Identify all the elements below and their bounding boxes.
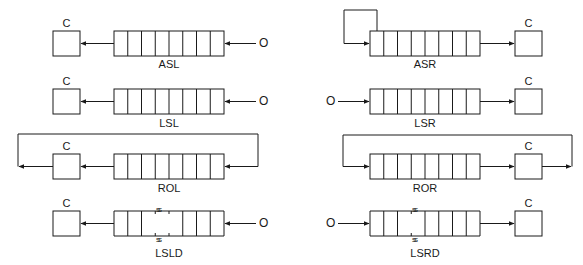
asl-diagram <box>53 31 256 56</box>
break-mark-icon: ss <box>412 236 416 244</box>
lsld-diagram <box>53 211 256 236</box>
carry-box <box>515 154 542 179</box>
zero-input-asl: O <box>259 37 268 49</box>
lsrd-diagram <box>338 211 542 236</box>
carry-label-lsld: C <box>53 197 80 209</box>
break-mark-icon: ss <box>156 236 160 244</box>
carry-label-lsrd: C <box>515 197 542 209</box>
shift-rotate-diagram <box>0 0 583 265</box>
carry-label-lsr: C <box>515 75 542 87</box>
zero-input-lsrd: O <box>326 217 335 229</box>
label-lsrd: LSRD <box>400 247 450 259</box>
label-asr: ASR <box>400 58 450 70</box>
carry-box <box>53 211 80 236</box>
sign-feedback-loop <box>344 10 377 44</box>
carry-box <box>53 154 80 179</box>
break-mark-icon: ss <box>156 206 160 214</box>
zero-input-lsld: O <box>259 217 268 229</box>
zero-input-lsr: O <box>326 95 335 107</box>
carry-box <box>515 89 542 114</box>
carry-label-asl: C <box>53 17 80 29</box>
label-lsld: LSLD <box>144 247 194 259</box>
label-asl: ASL <box>144 58 194 70</box>
lsl-diagram <box>53 89 256 114</box>
carry-label-asr: C <box>515 17 542 29</box>
carry-label-lsl: C <box>53 75 80 87</box>
asr-diagram <box>344 10 542 56</box>
carry-box <box>515 211 542 236</box>
carry-box <box>515 31 542 56</box>
carry-box <box>53 89 80 114</box>
double-register <box>114 211 224 236</box>
carry-label-ror: C <box>515 140 542 152</box>
label-rol: ROL <box>144 182 194 194</box>
carry-box <box>53 31 80 56</box>
label-lsl: LSL <box>144 117 194 129</box>
lsr-diagram <box>338 89 542 114</box>
carry-label-rol: C <box>53 140 80 152</box>
label-lsr: LSR <box>400 117 450 129</box>
label-ror: ROR <box>400 182 450 194</box>
break-mark-icon: ss <box>412 206 416 214</box>
zero-input-lsl: O <box>259 95 268 107</box>
